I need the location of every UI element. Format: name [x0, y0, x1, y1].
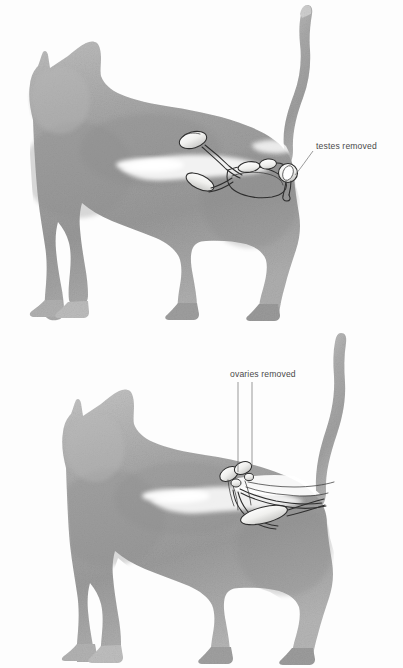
female-cat-tail [316, 333, 347, 508]
male-cat-rear-paws [165, 303, 280, 321]
label-ovaries-removed: ovaries removed [230, 369, 296, 379]
female-cat-rear-paws [198, 647, 315, 665]
leader-line-testes [295, 151, 313, 175]
label-testes-removed: testes removed [316, 141, 377, 151]
female-cat-front-paws [62, 644, 123, 663]
male-cat-tail [284, 5, 313, 166]
illustration-plate: testes removed [0, 0, 403, 668]
organ-ovary-left [231, 479, 241, 487]
female-cat-figure: ovaries removed [56, 333, 346, 665]
organ-ovary-right [245, 473, 254, 480]
male-cat-figure: testes removed [24, 5, 377, 321]
cat-anatomy-svg: testes removed [0, 0, 403, 668]
male-cat-front-paws [30, 300, 89, 318]
